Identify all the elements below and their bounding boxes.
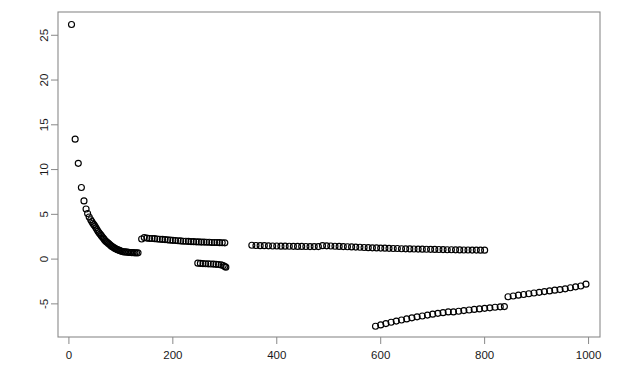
- y-tick-label: -5: [38, 299, 50, 309]
- y-tick-label: 0: [38, 256, 50, 262]
- y-tick-label: 5: [38, 211, 50, 217]
- x-tick-label: 200: [163, 349, 182, 361]
- x-tick-label: 1000: [576, 349, 602, 361]
- x-tick-label: 0: [66, 349, 72, 361]
- y-tick-label: 10: [38, 163, 50, 176]
- y-tick-label: 15: [38, 118, 50, 131]
- x-tick-label: 600: [371, 349, 390, 361]
- x-tick-label: 800: [475, 349, 494, 361]
- plot-canvas: 02004006008001000 -50510152025: [0, 0, 626, 387]
- x-tick-label: 400: [267, 349, 286, 361]
- plot-background: [0, 0, 626, 387]
- y-tick-label: 20: [38, 74, 50, 87]
- scatter-plot-figure: 02004006008001000 -50510152025: [0, 0, 626, 387]
- y-tick-label: 25: [38, 29, 50, 42]
